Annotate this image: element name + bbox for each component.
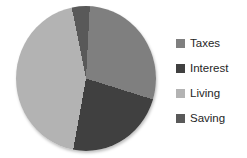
legend-label-living: Living — [190, 88, 220, 100]
legend-swatch-saving-icon — [176, 114, 185, 123]
legend-label-interest: Interest — [190, 63, 228, 75]
legend-item-interest: Interest — [176, 56, 228, 81]
pie-chart — [16, 6, 156, 151]
legend-item-taxes: Taxes — [176, 31, 228, 56]
legend-item-saving: Saving — [176, 106, 228, 131]
legend-swatch-taxes-icon — [176, 39, 185, 48]
legend-label-taxes: Taxes — [190, 38, 220, 50]
legend-label-saving: Saving — [190, 113, 225, 125]
legend-swatch-living-icon — [176, 89, 185, 98]
legend-swatch-interest-icon — [176, 64, 185, 73]
legend-item-living: Living — [176, 81, 228, 106]
chart-legend: Taxes Interest Living Saving — [176, 31, 228, 131]
pie-chart-figure: Taxes Interest Living Saving — [0, 0, 247, 158]
